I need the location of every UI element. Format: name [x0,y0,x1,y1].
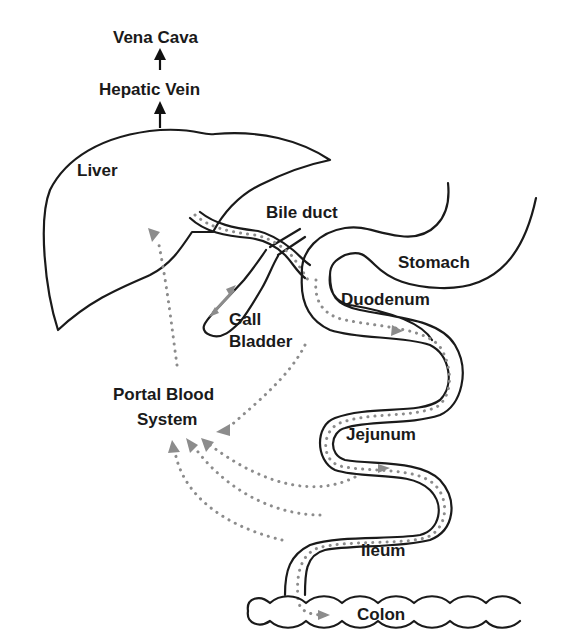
label-bladder: Bladder [229,332,293,351]
enterohepatic-diagram: Vena Cava Hepatic Vein Liver Bile duct G… [0,0,561,635]
portal-to-liver-arrow-icon [148,228,160,242]
ileum-to-portal-flow [195,448,320,515]
label-hepatic-vein: Hepatic Vein [99,80,200,99]
jejunum-to-portal-arrow-icon [201,438,214,452]
label-liver: Liver [77,161,118,180]
duodenum-to-portal-flow [228,345,305,428]
colon-to-portal-arrow-icon [168,440,180,453]
liver-outline [44,130,330,330]
label-ileum: Ileum [361,541,405,560]
jejunum-to-portal-flow [210,445,355,487]
duodenum-to-portal-arrow-icon [216,424,230,436]
portal-to-liver-flow [158,240,177,365]
colon-to-portal-flow [175,452,282,540]
label-duodenum: Duodenum [341,290,430,309]
stomach-curve [330,198,536,288]
ileum-to-portal-arrow-icon [186,438,198,453]
duodenum-flow-arrow-icon [391,325,403,336]
colon-flow-arrow-icon [318,610,330,620]
label-colon: Colon [357,605,405,624]
label-bile-duct: Bile duct [266,203,338,222]
label-stomach: Stomach [398,253,470,272]
label-portal-blood: Portal Blood [113,385,214,404]
arrow-hepatic-to-vena-icon [154,48,166,70]
label-system: System [137,410,197,429]
label-gall: Gall [229,310,261,329]
arrow-liver-to-hepatic-icon [154,101,166,128]
label-jejunum: Jejunum [346,425,416,444]
label-vena-cava: Vena Cava [113,28,199,47]
